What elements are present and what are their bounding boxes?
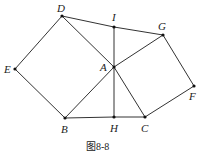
point-B	[63, 116, 66, 119]
point-F	[192, 84, 195, 87]
segment-BH	[65, 117, 114, 118]
label-B: B	[61, 123, 68, 135]
label-D: D	[56, 2, 65, 14]
label-C: C	[141, 122, 149, 134]
point-I	[112, 25, 115, 28]
label-H: H	[109, 122, 119, 134]
point-H	[112, 115, 115, 118]
segment-BA	[65, 67, 114, 118]
figure-caption: 图8-8	[86, 141, 109, 151]
labels: D I G E A F B H C	[3, 2, 196, 135]
segment-AG	[114, 35, 163, 67]
point-A	[112, 65, 115, 68]
segment-DI	[62, 16, 114, 27]
label-F: F	[188, 90, 196, 102]
segment-DA	[62, 16, 114, 67]
segment-IG	[114, 27, 163, 35]
label-I: I	[111, 11, 117, 23]
segment-GF	[163, 35, 194, 86]
point-G	[161, 33, 164, 36]
label-G: G	[158, 20, 166, 32]
segment-FC	[145, 86, 194, 117]
segment-EB	[15, 69, 65, 118]
point-C	[143, 115, 146, 118]
label-E: E	[3, 63, 11, 75]
segment-DE	[15, 16, 62, 69]
point-E	[13, 67, 16, 70]
geometry-diagram: D I G E A F B H C 图8-8	[0, 0, 199, 151]
point-D	[60, 14, 63, 17]
segment-AC	[114, 67, 145, 117]
label-A: A	[99, 61, 107, 73]
